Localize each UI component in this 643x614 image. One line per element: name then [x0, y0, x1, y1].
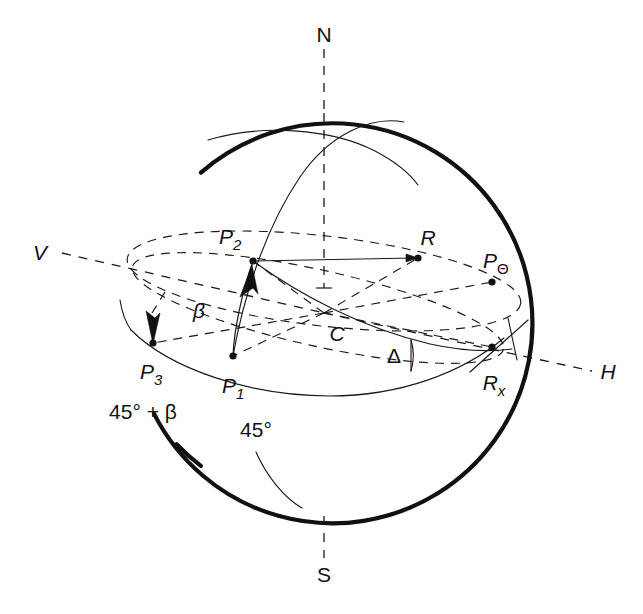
figure-root: N S V H P2 P3 P1 R PΘ Rx C β Δ — [0, 0, 643, 614]
label-angle-delta: Δ — [387, 344, 401, 367]
label-point-p2: P2 — [219, 225, 242, 253]
label-v-axis: V — [33, 241, 49, 264]
label-point-p1-sub: 1 — [236, 385, 244, 402]
h-axis-dashed — [324, 313, 592, 371]
radius-dash-c-to-p1 — [233, 313, 324, 356]
label-angle-45-plus-beta: 45° + β — [109, 400, 177, 423]
label-point-rx-sub: x — [497, 382, 506, 399]
label-point-ptheta-base: P — [483, 249, 497, 272]
label-point-p3: P3 — [140, 360, 163, 388]
label-angle-beta: β — [192, 299, 205, 322]
point-dot-p1 — [229, 352, 236, 359]
radius-dash-c-to-r — [324, 258, 418, 313]
label-point-c: C — [329, 322, 345, 345]
point-dot-ptheta — [488, 278, 495, 285]
radius-dash-c-to-p3 — [153, 313, 324, 343]
label-point-p2-base: P — [219, 225, 233, 248]
label-point-p2-sub: 2 — [232, 236, 242, 253]
radius-dash-c-to-ptheta — [324, 282, 492, 313]
meridian-arc-to-south-pole — [256, 452, 302, 508]
label-point-p1-base: P — [222, 374, 236, 397]
label-h-axis: H — [600, 360, 616, 383]
point-dot-r — [414, 254, 421, 261]
great-circle-arc-tilted-upper — [253, 261, 512, 351]
spherical-diagram-svg: N S V H P2 P3 P1 R PΘ Rx C β Δ — [0, 0, 643, 614]
label-point-rx: Rx — [483, 371, 506, 399]
label-point-p3-sub: 3 — [154, 371, 163, 388]
label-north: N — [316, 23, 331, 46]
label-angle-45: 45° — [240, 418, 272, 441]
label-point-r: R — [420, 226, 435, 249]
label-point-ptheta-sub: Θ — [497, 260, 509, 277]
point-dot-p3 — [149, 339, 156, 346]
label-point-p3-base: P — [140, 360, 154, 383]
meridian-arc-through-north — [233, 121, 404, 356]
point-dot-p2 — [249, 257, 256, 264]
meridian-arc-secondary — [208, 130, 418, 185]
arrowhead-p3 — [146, 311, 160, 344]
label-south: S — [317, 563, 331, 586]
point-dot-rx — [488, 343, 495, 350]
tilted-circle-left-cap — [120, 300, 131, 330]
label-point-rx-base: R — [483, 371, 498, 394]
vector-p2-to-r — [253, 258, 414, 261]
p3-arrow-lead-dash — [152, 292, 165, 313]
label-point-p1: P1 — [222, 374, 244, 402]
